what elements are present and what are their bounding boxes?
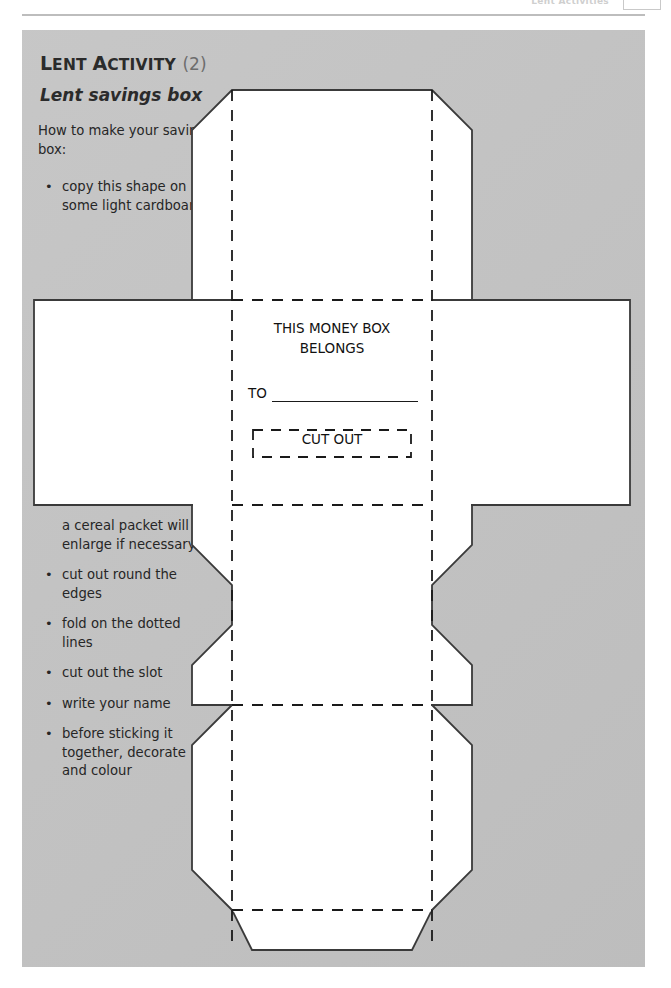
page-title-word2-lead: A — [92, 52, 107, 74]
instructions-list-top: • copy this shape on some light cardboar… — [38, 178, 214, 227]
list-item: • cut out round the edges — [38, 566, 214, 603]
to-label: TO — [248, 385, 267, 401]
activity-panel: LENT ACTIVITY (2) Lent savings box How t… — [22, 30, 645, 967]
running-header-title: Lent Activities — [531, 0, 609, 6]
to-name-writing-line — [272, 401, 418, 402]
list-item-label: a cereal packet will do, enlarge if nece… — [62, 518, 214, 552]
list-item: a cereal packet will do, enlarge if nece… — [38, 517, 214, 554]
list-item-label: cut out the slot — [62, 665, 162, 680]
money-box-belongs-label: THIS MONEY BOX BELONGS — [232, 318, 432, 358]
header-divider — [22, 14, 645, 16]
list-item-label: write your name — [62, 696, 171, 711]
instructions-list-bottom: a cereal packet will do, enlarge if nece… — [38, 517, 214, 793]
bullet-icon: • — [45, 178, 53, 197]
list-item-label: copy this shape on some light cardboard: — [62, 179, 207, 213]
page-title: LENT ACTIVITY (2) — [40, 52, 207, 74]
instruction-list-upper: • copy this shape on some light cardboar… — [38, 178, 214, 215]
bullet-icon: • — [45, 695, 53, 714]
page-title-rest: ENT — [52, 56, 92, 74]
running-header: Lent Activities — [0, 0, 671, 24]
belongs-line-2: BELONGS — [232, 338, 432, 358]
belongs-line-1: THIS MONEY BOX — [232, 318, 432, 338]
list-item-label: before sticking it together, decorate an… — [62, 726, 186, 778]
list-item-label: fold on the dotted lines — [62, 616, 181, 650]
instructions-intro: How to make your savings box: — [38, 122, 214, 159]
page-title-lead: L — [40, 52, 52, 74]
list-item: • write your name — [38, 695, 214, 714]
list-item: • cut out the slot — [38, 664, 214, 683]
page-title-number: (2) — [182, 54, 206, 74]
list-item: • copy this shape on some light cardboar… — [38, 178, 214, 215]
list-item: • before sticking it together, decorate … — [38, 725, 214, 781]
instruction-list-lower: a cereal packet will do, enlarge if nece… — [38, 517, 214, 781]
bullet-icon: • — [45, 725, 53, 744]
list-item-label: cut out round the edges — [62, 567, 177, 601]
page-number-box — [623, 0, 661, 10]
bullet-icon: • — [45, 566, 53, 585]
cut-out-label: CUT OUT — [252, 431, 412, 447]
bullet-icon: • — [45, 664, 53, 683]
page-title-word2-rest: CTIVITY — [107, 56, 176, 74]
bullet-icon: • — [45, 615, 53, 634]
list-item: • fold on the dotted lines — [38, 615, 214, 652]
page-subtitle: Lent savings box — [40, 85, 202, 105]
